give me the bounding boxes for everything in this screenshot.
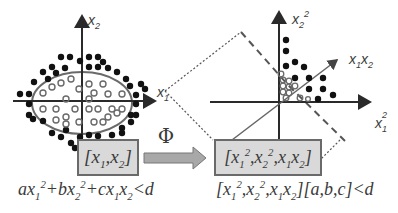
separating-plane bbox=[241, 32, 345, 141]
x1x2-axis-label: x1x2 bbox=[348, 51, 373, 70]
left-decision-formula: ax12+bx22+cx1x2<d bbox=[18, 178, 154, 202]
outer-class-dots-mapped bbox=[283, 37, 336, 102]
input-vector-label: [x1,x2] bbox=[84, 146, 132, 170]
feature-vector-label: [x12,x22,x1x2] bbox=[224, 146, 311, 170]
x1-axis-label: x1 bbox=[156, 84, 169, 103]
right-plot: x22 x1x2 x12 bbox=[210, 9, 387, 141]
phi-mapping-arrow: Φ bbox=[144, 124, 206, 169]
input-vector-box: [x1,x2] bbox=[77, 139, 139, 176]
x1sq-axis-label: x12 bbox=[374, 110, 387, 134]
kernel-mapping-diagram: x1 x2 bbox=[0, 0, 398, 213]
feature-vector-box: [x12,x22,x1x2] bbox=[214, 139, 322, 176]
left-plot: x1 x2 bbox=[13, 12, 169, 151]
x2-axis-label: x2 bbox=[87, 12, 100, 31]
right-decision-formula: [x12,x22,x1x2][a,b,c]<d bbox=[216, 178, 374, 202]
phi-symbol: Φ bbox=[158, 124, 174, 148]
right-arrow-icon bbox=[144, 147, 206, 169]
x2sq-axis-label: x22 bbox=[291, 9, 309, 30]
